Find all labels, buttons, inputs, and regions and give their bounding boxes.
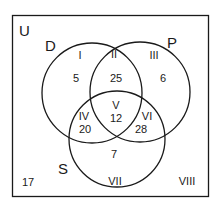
set-p-label: P bbox=[167, 34, 177, 51]
set-d-label: D bbox=[45, 37, 56, 54]
region-ii-value: 25 bbox=[110, 72, 122, 84]
universe-label: U bbox=[19, 22, 30, 39]
region-vii-value: 7 bbox=[111, 148, 117, 160]
venn-diagram: U D P S I 5 II 25 III 6 IV 20 V 12 VI 28… bbox=[0, 0, 222, 207]
region-i-value: 5 bbox=[73, 72, 79, 84]
region-viii-value: 17 bbox=[22, 176, 34, 188]
region-iii-roman: III bbox=[149, 49, 158, 61]
region-vi-value: 28 bbox=[135, 123, 147, 135]
region-vi-roman: VI bbox=[142, 110, 152, 122]
region-i-roman: I bbox=[78, 49, 81, 61]
set-d-circle bbox=[42, 43, 142, 143]
region-ii-roman: II bbox=[111, 48, 117, 60]
region-viii-roman: VIII bbox=[179, 175, 196, 187]
region-vii-roman: VII bbox=[108, 175, 121, 187]
universe-frame bbox=[13, 16, 209, 197]
region-iv-roman: IV bbox=[79, 110, 90, 122]
region-iii-value: 6 bbox=[160, 72, 166, 84]
region-iv-value: 20 bbox=[79, 123, 91, 135]
region-v-value: 12 bbox=[110, 112, 122, 124]
region-v-roman: V bbox=[112, 99, 120, 111]
set-s-label: S bbox=[58, 160, 68, 177]
